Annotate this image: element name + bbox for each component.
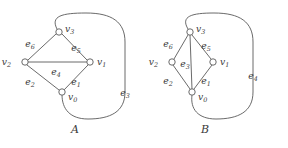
edge-label-e1-graph-B: e1 (201, 75, 211, 89)
edge-e6-graph-B (174, 35, 188, 59)
edge-label-e2-graph-B: e2 (163, 75, 173, 89)
vertex-v0-graph-B (189, 89, 195, 95)
edge-label-e6-graph-B: e6 (163, 38, 173, 52)
edge-label-e5-graph-A: e5 (71, 42, 81, 56)
edge-label-e3-graph-A: e3 (120, 87, 130, 101)
edge-label-e3-graph-B: e3 (180, 58, 190, 72)
edge-label-e6-graph-A: e6 (25, 38, 35, 52)
graph-A: e6e5e4e2e1e3v3v2v1v0A (2, 13, 130, 136)
vertex-label-v0-graph-A: v0 (68, 91, 77, 105)
edge-label-e1-graph-A: e1 (71, 76, 81, 90)
vertex-v1-graph-A (87, 59, 93, 65)
edge-label-e5-graph-B: e5 (201, 40, 211, 54)
graph-B: e6e5e3e2e1e4v3v2v1v0B (149, 13, 258, 136)
vertex-v2-graph-A (22, 59, 28, 65)
vertex-v3-graph-A (56, 29, 62, 35)
edge-e3-graph-B (190, 35, 192, 89)
vertex-label-v2-graph-B: v2 (149, 56, 158, 70)
vertex-label-v3-graph-A: v3 (65, 23, 74, 37)
graph-figure-svg: e6e5e4e2e1e3v3v2v1v0A e6e5e3e2e1e4v3v2v1… (0, 0, 288, 148)
vertex-label-v1-graph-A: v1 (97, 56, 106, 70)
vertex-label-v3-graph-B: v3 (196, 23, 205, 37)
vertex-label-v2-graph-A: v2 (2, 56, 11, 70)
vertex-label-v0-graph-B: v0 (198, 91, 207, 105)
graph-caption-A: A (70, 123, 79, 136)
vertex-v0-graph-A (59, 89, 65, 95)
graph-caption-B: B (200, 123, 209, 136)
vertex-v1-graph-B (210, 59, 216, 65)
vertex-v2-graph-B (169, 59, 175, 65)
edge-label-e2-graph-A: e2 (25, 76, 35, 90)
edge-label-e4-graph-B: e4 (248, 70, 258, 84)
edge-label-e4-graph-A: e4 (51, 66, 61, 80)
vertex-v3-graph-B (187, 29, 193, 35)
figure-container: e6e5e4e2e1e3v3v2v1v0A e6e5e3e2e1e4v3v2v1… (0, 0, 288, 148)
vertex-label-v1-graph-B: v1 (220, 56, 229, 70)
